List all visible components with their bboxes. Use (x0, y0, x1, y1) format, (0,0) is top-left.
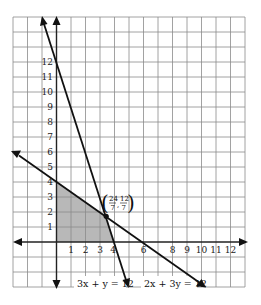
svg-text:): ) (127, 191, 135, 215)
svg-text:7: 7 (122, 204, 126, 212)
svg-text:2: 2 (47, 207, 53, 217)
svg-text:9: 9 (47, 102, 53, 112)
svg-text:1: 1 (68, 245, 74, 255)
svg-text:8: 8 (47, 117, 53, 127)
svg-text:9: 9 (184, 245, 190, 255)
y-tick-labels: 1 2 3 4 5 6 7 8 9 10 11 12 (42, 57, 54, 232)
svg-text:2: 2 (83, 245, 89, 255)
svg-text:11: 11 (42, 72, 53, 82)
svg-text:(: ( (101, 191, 109, 215)
equation-label-2: 2x + 3y = 12 (144, 278, 207, 289)
svg-text:12: 12 (42, 57, 53, 67)
svg-text:7: 7 (47, 132, 53, 142)
intersection-label: ( 24 7 , 12 7 ) (101, 191, 135, 215)
svg-text:4: 4 (47, 177, 53, 187)
svg-text:10: 10 (196, 245, 208, 255)
svg-text:,: , (117, 201, 119, 209)
graph: ( 24 7 , 12 7 ) 1 2 3 4 5 6 7 8 9 10 11 … (0, 0, 261, 305)
svg-text:3: 3 (97, 245, 103, 255)
line-2x-plus-3y-eq-12 (11, 151, 206, 288)
svg-text:7: 7 (111, 204, 115, 212)
svg-text:5: 5 (47, 162, 53, 172)
svg-text:4: 4 (110, 245, 116, 255)
svg-text:6: 6 (141, 245, 147, 255)
equation-label-1: 3x + y = 12 (77, 278, 134, 289)
svg-text:10: 10 (42, 87, 54, 97)
svg-text:12: 12 (225, 245, 236, 255)
svg-text:11: 11 (210, 245, 221, 255)
svg-text:1: 1 (47, 222, 53, 232)
svg-text:3: 3 (47, 192, 53, 202)
svg-text:6: 6 (47, 147, 53, 157)
svg-text:8: 8 (170, 245, 176, 255)
